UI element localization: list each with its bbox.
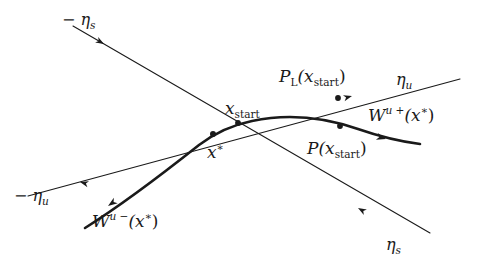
eta-s-subscript: s <box>396 244 401 256</box>
x-start-subscript: start <box>235 108 260 120</box>
w-u-plus-arg-asterisk: ∗ <box>421 104 428 116</box>
stable-eigendirection-line <box>73 26 430 233</box>
w-u-minus-base: W <box>92 211 109 231</box>
eta-u-subscript: u <box>406 79 413 91</box>
arrow-eta-s-lower <box>356 205 366 215</box>
p-l-base: P <box>279 66 290 86</box>
w-u-plus-arg-close: ) <box>428 105 435 125</box>
minus-eta-u-text: − η <box>14 186 42 205</box>
figure-canvas: − ηs − ηu ηu ηs xstart x∗ PL(xstart) P(x… <box>0 0 479 267</box>
minus-eta-s-subscript: s <box>90 19 95 31</box>
arrow-eta-s-upper <box>95 37 105 47</box>
p-base: P <box>307 138 318 158</box>
label-minus-eta-u: − ηu <box>14 188 49 207</box>
point-x-start <box>235 120 241 126</box>
arrow-eta-u-right <box>343 93 353 101</box>
w-u-plus-arg-open: (x <box>404 105 420 125</box>
w-u-minus-arg-asterisk: ∗ <box>145 210 152 222</box>
w-u-minus-superscript: u − <box>109 210 128 222</box>
p-arg-subscript: start <box>335 148 360 160</box>
label-w-u-plus: Wu +(x∗) <box>368 105 435 124</box>
fixed-point-x-star <box>210 131 216 137</box>
label-x-start: xstart <box>225 100 260 120</box>
w-u-minus-arg-close: ) <box>152 211 159 231</box>
eta-s-text: η <box>386 235 396 254</box>
unstable-eigendirection-line <box>28 79 460 196</box>
p-l-arg-open: (x <box>297 66 313 86</box>
lines-group <box>28 26 460 233</box>
label-w-u-minus: Wu −(x∗) <box>92 211 159 230</box>
label-x-star: x∗ <box>207 142 224 161</box>
p-l-arg-close: ) <box>339 66 346 86</box>
x-start-base: x <box>225 98 235 118</box>
w-u-minus-arg-open: (x <box>128 211 144 231</box>
label-p-l-x-start: PL(xstart) <box>279 68 346 88</box>
w-u-plus-base: W <box>368 105 385 125</box>
eta-u-text: η <box>396 70 406 89</box>
label-minus-eta-s: − ηs <box>62 12 96 31</box>
p-arg-open: (x <box>318 138 334 158</box>
x-star-base: x <box>207 142 217 162</box>
minus-eta-u-subscript: u <box>42 195 49 207</box>
label-p-x-start: P(xstart) <box>307 140 367 160</box>
minus-eta-s-text: − η <box>62 10 90 29</box>
w-u-plus-superscript: u + <box>385 104 404 116</box>
point-p-x-start <box>337 123 343 129</box>
p-arg-close: ) <box>360 138 367 158</box>
x-star-asterisk: ∗ <box>217 141 224 153</box>
p-l-arg-subscript: start <box>314 76 339 88</box>
point-p-l-x-start <box>335 95 341 101</box>
label-eta-u: ηu <box>396 72 412 91</box>
diagram-svg <box>0 0 479 267</box>
label-eta-s: ηs <box>386 237 401 256</box>
